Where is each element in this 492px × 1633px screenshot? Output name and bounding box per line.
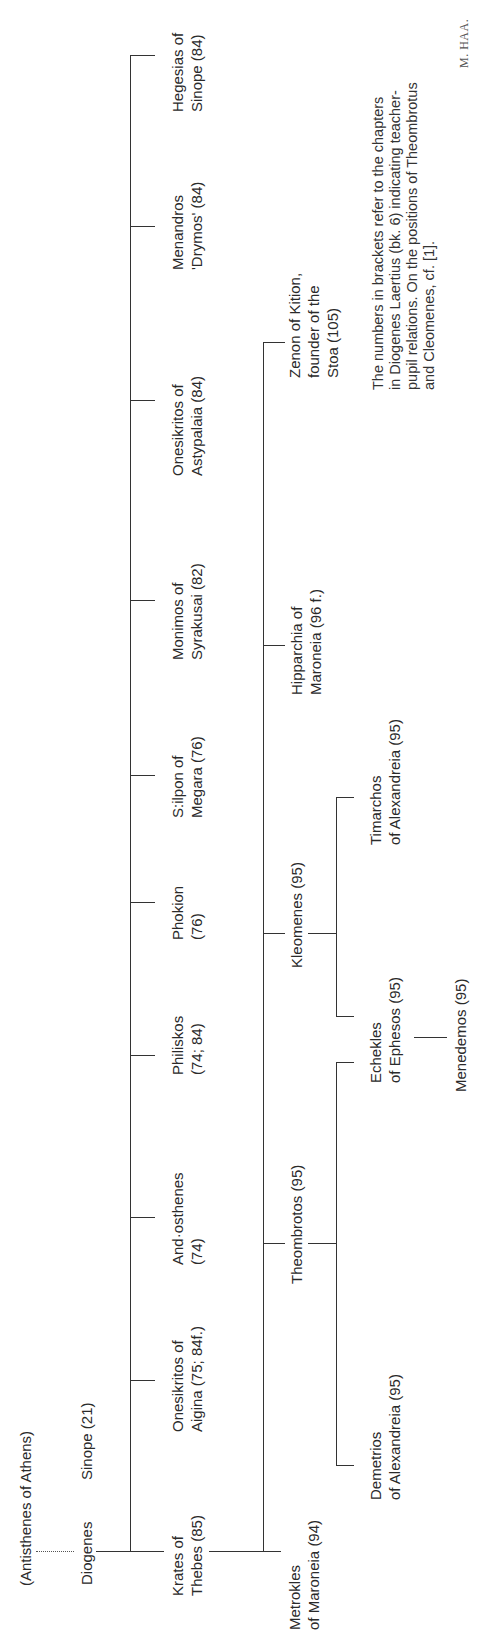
kleomenes-pupils-trunk bbox=[336, 797, 337, 1017]
node-antisthenes: (Antisthenes of Athens) bbox=[16, 1431, 35, 1586]
tick-demetrios bbox=[336, 1465, 354, 1466]
tick-phokion bbox=[130, 902, 155, 903]
node-onesikritos-astypalaia: Onesikritos of Astypalaia (84) bbox=[168, 376, 206, 476]
tick-onesikritos-aigina bbox=[130, 1380, 155, 1381]
node-demetrios: Demetrios of Alexandreia (95) bbox=[366, 1374, 404, 1500]
tick-theombrotos-left bbox=[263, 1243, 285, 1244]
node-zenon: Zenon of Kition, founder of the Stoa (10… bbox=[285, 273, 342, 378]
tick-monimos bbox=[130, 600, 155, 601]
krates-connector bbox=[209, 1551, 281, 1552]
node-menandros: Menandros 'Drymos' (84) bbox=[168, 182, 206, 270]
antisthenes-dotted-link bbox=[36, 1551, 74, 1552]
node-phokion: Phokion (76) bbox=[168, 886, 206, 940]
tick-onesikritos-astypalaia bbox=[130, 400, 155, 401]
node-krates: Krates of Thebes (85) bbox=[168, 1515, 206, 1596]
diogenes-pupils-trunk bbox=[130, 55, 131, 1552]
node-diogenes: DiogenesSinope (21) bbox=[77, 1402, 96, 1585]
signature: M. HAA. bbox=[455, 19, 474, 68]
node-monimos: Monimos of Syrakusai (82) bbox=[168, 563, 206, 660]
tick-zenon bbox=[263, 342, 285, 343]
tick-echekles-from-kleomenes bbox=[336, 1016, 354, 1017]
tick-stilpon bbox=[130, 775, 155, 776]
footnote: The numbers in brackets refer to the cha… bbox=[370, 82, 438, 390]
tick-hegesias bbox=[130, 55, 155, 56]
node-stilpon: S:ilpon of Megara (76) bbox=[168, 736, 206, 818]
diogenes-name: Diogenes bbox=[77, 1480, 96, 1585]
tick-kleomenes-right bbox=[308, 933, 336, 934]
tick-hipparchia bbox=[263, 645, 285, 646]
node-androsthenes: And·osthenes (74) bbox=[168, 1172, 206, 1265]
node-philiskos: Philiskos (74; 84) bbox=[168, 1016, 206, 1075]
diogenes-origin: Sinope (21) bbox=[78, 1402, 95, 1480]
theombrotos-pupils-trunk bbox=[336, 1062, 337, 1466]
tick-philiskos bbox=[130, 1055, 155, 1056]
tick-echekles-from-theombrotos bbox=[336, 1062, 354, 1063]
node-echekles: Echekles of Ephesos (95) bbox=[366, 977, 404, 1083]
node-menedemos: Menedemos (95) bbox=[451, 979, 470, 1092]
krates-pupils-trunk bbox=[263, 342, 264, 1552]
tick-theombrotos-right bbox=[308, 1243, 336, 1244]
node-kleomenes: Kleomenes (95) bbox=[287, 862, 306, 968]
node-timarchos: Timarchos of Alexandreia (95) bbox=[366, 719, 404, 845]
tick-menedemos bbox=[414, 1037, 447, 1038]
tick-kleomenes-left bbox=[263, 933, 285, 934]
node-onesikritos-aigina: Onesikritos of Aigina (75; 84f.) bbox=[168, 1326, 206, 1432]
node-theombrotos: Theombrotos (95) bbox=[287, 1165, 306, 1284]
node-metrokles: Metrokles of Maroneia (94) bbox=[285, 1520, 323, 1630]
node-hegesias: Hegesias of Sinope (84) bbox=[168, 33, 206, 112]
tick-menandros bbox=[130, 226, 155, 227]
node-hipparchia: Hipparchia of Maroneia (96 f.) bbox=[287, 589, 325, 695]
tick-timarchos bbox=[336, 797, 354, 798]
tick-androsthenes bbox=[130, 1217, 155, 1218]
